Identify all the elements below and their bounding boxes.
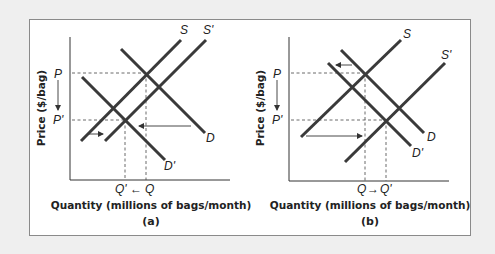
- demand-curve-d-prime: [82, 77, 165, 160]
- x-axis-title: Quantity (millions of bags/month): [51, 199, 251, 211]
- label-d-prime: D': [164, 159, 176, 173]
- demand-curve-d-prime: [328, 63, 411, 146]
- panel-b: S S' D D' P P' Q → Q' Price ($/bag) Quan…: [254, 27, 470, 228]
- label-q-prime: Q': [115, 182, 127, 196]
- label-s-prime: S': [203, 23, 214, 37]
- label-q: Q: [357, 182, 366, 196]
- y-axis-title: Price ($/bag): [35, 70, 47, 146]
- label-s: S: [403, 27, 411, 41]
- x-axis-title: Quantity (millions of bags/month): [270, 199, 470, 211]
- label-s: S: [180, 23, 188, 37]
- label-s-prime: S': [441, 48, 452, 62]
- y-axis-title: Price ($/bag): [254, 70, 266, 146]
- panel-a: S S' D D' P P' Q' ← Q Price ($/bag) Quan…: [35, 23, 251, 228]
- quantity-change-arrow: →: [367, 182, 379, 196]
- demand-curve-d: [341, 50, 424, 133]
- supply-demand-figure: S S' D D' P P' Q' ← Q Price ($/bag) Quan…: [0, 0, 495, 254]
- label-d-prime: D': [412, 146, 424, 160]
- quantity-change-arrow: ←: [130, 182, 142, 196]
- label-q: Q: [145, 182, 154, 196]
- label-d: D: [206, 131, 215, 145]
- label-d: D: [427, 130, 436, 144]
- label-p: P: [54, 67, 62, 81]
- label-p: P: [273, 67, 281, 81]
- label-p-prime: P': [272, 113, 283, 127]
- label-q-prime: Q': [380, 182, 392, 196]
- panel-caption: (a): [142, 215, 159, 228]
- panel-caption: (b): [361, 215, 379, 228]
- label-p-prime: P': [53, 113, 64, 127]
- demand-curve-d: [121, 49, 205, 133]
